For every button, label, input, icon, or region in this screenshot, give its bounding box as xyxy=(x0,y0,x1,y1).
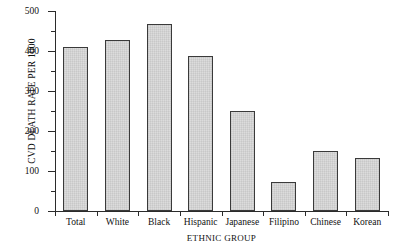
y-minor-tick-50 xyxy=(51,191,55,192)
y-tick-0: 0 xyxy=(48,211,55,212)
bar-filipino xyxy=(271,182,296,211)
y-tick-label-500: 500 xyxy=(25,6,39,16)
y-tick-label-200: 200 xyxy=(25,126,39,136)
x-tick-label-japanese: Japanese xyxy=(225,217,259,227)
x-tick-label-hispanic: Hispanic xyxy=(184,217,218,227)
y-tick-label-0: 0 xyxy=(34,206,39,216)
y-tick-100: 100 xyxy=(48,171,55,172)
y-tick-label-100: 100 xyxy=(25,166,39,176)
x-tick-label-chinese: Chinese xyxy=(310,217,341,227)
x-tick-label-black: Black xyxy=(148,217,170,227)
y-minor-tick-150 xyxy=(51,151,55,152)
bar-hispanic xyxy=(188,56,213,211)
x-tick-boundary-7 xyxy=(346,211,347,216)
bar-total xyxy=(63,47,88,211)
x-axis-title: ETHNIC GROUP xyxy=(55,233,388,243)
y-tick-label-400: 400 xyxy=(25,46,39,56)
y-minor-tick-350 xyxy=(51,71,55,72)
bar-chinese xyxy=(313,151,338,211)
plot-area: 0100200300400500 TotalWhiteBlackHispanic… xyxy=(55,11,388,211)
y-tick-500: 500 xyxy=(48,11,55,12)
x-tick-boundary-4 xyxy=(222,211,223,216)
x-tick-boundary-8 xyxy=(388,211,389,216)
x-tick-boundary-1 xyxy=(97,211,98,216)
x-tick-label-filipino: Filipino xyxy=(269,217,299,227)
bar-japanese xyxy=(230,111,255,211)
x-tick-boundary-6 xyxy=(305,211,306,216)
x-tick-boundary-5 xyxy=(263,211,264,216)
x-axis-ticks xyxy=(55,211,388,216)
y-minor-tick-450 xyxy=(51,31,55,32)
x-tick-label-total: Total xyxy=(66,217,85,227)
cvd-death-rate-bar-chart: CVD DEATH RATE PER 1000 0100200300400500… xyxy=(0,0,398,249)
x-tick-label-white: White xyxy=(106,217,129,227)
y-tick-200: 200 xyxy=(48,131,55,132)
y-axis-line xyxy=(55,11,56,211)
y-tick-label-300: 300 xyxy=(25,86,39,96)
x-tick-label-korean: Korean xyxy=(353,217,381,227)
x-tick-boundary-0 xyxy=(55,211,56,216)
y-minor-tick-250 xyxy=(51,111,55,112)
x-tick-boundary-3 xyxy=(180,211,181,216)
y-tick-400: 400 xyxy=(48,51,55,52)
y-tick-300: 300 xyxy=(48,91,55,92)
bar-korean xyxy=(355,158,380,211)
x-tick-boundary-2 xyxy=(138,211,139,216)
bar-white xyxy=(105,40,130,211)
bar-black xyxy=(147,24,172,211)
